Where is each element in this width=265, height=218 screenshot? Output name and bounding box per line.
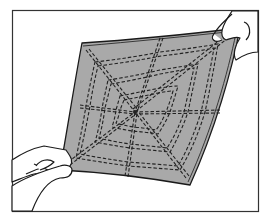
web-center: [133, 110, 137, 114]
spiderweb-fabric-illustration: [0, 0, 265, 218]
